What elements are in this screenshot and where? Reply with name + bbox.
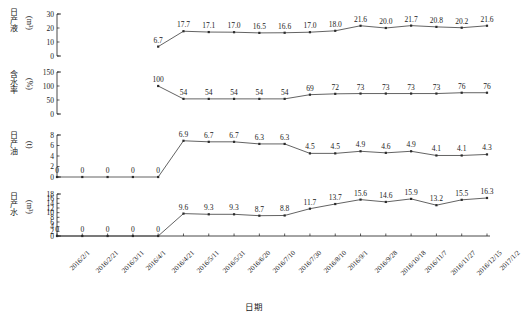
x-tick-label: 2016/9/1 (347, 249, 370, 272)
panel-1-data-label: 73 (407, 83, 415, 92)
panel-2-y-tick: 0 (50, 173, 54, 182)
x-tick-label: 2016/11/7 (423, 249, 449, 275)
panel-0-data-label: 16.6 (278, 22, 291, 31)
x-tick-label: 2016/7/30 (297, 249, 323, 275)
panel-3-data-label: 9.3 (204, 203, 214, 212)
panel-3-data-point (56, 235, 58, 237)
panel-3-data-label: 0 (156, 225, 160, 234)
panel-0-data-label: 6.7 (153, 36, 163, 45)
panel-2-data-point (284, 143, 286, 145)
panel-2-data-label: 4.1 (457, 144, 467, 153)
panel-3-data-label: 15.9 (405, 188, 418, 197)
panel-2-data-label: 4.9 (406, 140, 416, 149)
panel-0-data-point (309, 31, 311, 33)
panel-2-y-tick: 6 (50, 141, 54, 150)
x-tick-label: 2016/10/18 (399, 249, 427, 277)
x-tick-label: 2016/11/27 (450, 249, 478, 277)
panel-3-data-point (106, 235, 108, 237)
x-axis-area: 2016/2/12016/2/212016/3/112016/4/12016/4… (0, 246, 507, 317)
panel-0-data-point (157, 46, 159, 48)
panel-2-data-point (106, 176, 108, 178)
panel-2-data-point (334, 152, 336, 154)
panel-0-data-point (359, 25, 361, 27)
panel-2-data-label: 4.1 (432, 144, 442, 153)
panel-1-data-point (486, 92, 488, 94)
panel-1-data-point (385, 92, 387, 94)
panel-2-data-label: 6.7 (204, 131, 214, 140)
panel-2-data-label: 0 (131, 166, 135, 175)
panel-3-data-point (284, 214, 286, 216)
panel-2-data-label: 4.9 (356, 140, 366, 149)
panel-0-data-label: 21.7 (405, 15, 418, 24)
panel-3-data-point (435, 204, 437, 206)
panel-1-data-point (461, 92, 463, 94)
panel-2-data-point (435, 154, 437, 156)
panel-3-data-label: 9.3 (229, 203, 239, 212)
x-tick-label: 2016/4/21 (170, 249, 196, 275)
panel-1-data-point (435, 92, 437, 94)
panel-1-data-label: 54 (205, 88, 213, 97)
panel-3-data-label: 14.6 (379, 191, 392, 200)
panel-0-y-tick: 20 (47, 24, 55, 33)
panel-0-data-point (334, 30, 336, 32)
panel-1-data-point (359, 92, 361, 94)
panel-3-data-point (81, 235, 83, 237)
panel-0-data-label: 17.0 (303, 21, 316, 30)
panel-3-data-label: 8.8 (280, 204, 290, 213)
panel-1-data-label: 69 (306, 84, 314, 93)
x-tick-label: 2016/2/1 (68, 249, 91, 272)
panel-2-data-point (461, 154, 463, 156)
panel-3-data-label: 0 (55, 225, 59, 234)
panel-1-data-label: 54 (180, 88, 188, 97)
panel-0-data-point (435, 26, 437, 28)
panel-3-series-line (57, 198, 487, 236)
panel-2-data-point (208, 141, 210, 143)
panel-0-data-label: 17.0 (227, 21, 240, 30)
panel-0-data-point (208, 31, 210, 33)
panel-2-data-label: 4.6 (381, 142, 391, 151)
panel-2-data-point (258, 143, 260, 145)
panel-2-data-point (157, 176, 159, 178)
x-tick-label: 2016/9/28 (373, 249, 399, 275)
panel-3-data-label: 16.3 (480, 187, 493, 196)
panel-2-data-label: 4.3 (482, 143, 492, 152)
panel-1-data-point (334, 93, 336, 95)
panel-2-data-point (132, 176, 134, 178)
panel-3-data-point (461, 199, 463, 201)
panel-0-y-tick: 0 (50, 52, 54, 61)
panel-0-data-label: 17.1 (202, 21, 215, 30)
panel-3-data-point (359, 199, 361, 201)
panel-2-data-point (359, 150, 361, 152)
panel-1-data-point (233, 98, 235, 100)
panel-2-plot: 02468000006.96.76.76.36.34.54.54.94.64.9… (0, 123, 507, 184)
panel-daily-oil-production: 日产油 (t) 02468000006.96.76.76.36.34.54.54… (0, 123, 507, 184)
panel-3-data-point (486, 197, 488, 199)
panel-1-data-point (284, 98, 286, 100)
x-tick-label: 2016/2/21 (95, 249, 121, 275)
panel-0-y-tick: 10 (47, 38, 55, 47)
panel-3-data-label: 9.6 (179, 203, 189, 212)
panel-3-data-label: 0 (131, 225, 135, 234)
panel-3-data-point (182, 213, 184, 215)
x-tick-label: 2016/5/31 (221, 249, 247, 275)
panel-2-data-point (182, 140, 184, 142)
panel-2-data-label: 0 (106, 166, 110, 175)
panel-water-cut: 含水率 (%) 05010015010054545454546972737373… (0, 62, 507, 123)
panel-0-data-label: 16.5 (253, 22, 266, 31)
panel-3-data-label: 15.6 (354, 189, 367, 198)
panel-0-data-point (284, 32, 286, 34)
panel-1-y-tick: 150 (43, 68, 55, 77)
panel-1-data-label: 76 (458, 82, 466, 91)
x-tick-label: 2016/5/11 (196, 249, 222, 275)
panel-1-data-label: 73 (433, 83, 441, 92)
panel-3-data-point (334, 203, 336, 205)
panel-2-data-point (410, 150, 412, 152)
x-tick-label: 2016/8/10 (322, 249, 348, 275)
panel-1-data-point (157, 85, 159, 87)
panel-daily-liquid-production: 日产液 (m³) 01020306.717.717.117.016.516.61… (0, 0, 507, 62)
panel-1-data-point (410, 92, 412, 94)
panel-0-data-label: 20.0 (379, 17, 392, 26)
panel-0-data-label: 21.6 (354, 15, 367, 24)
panel-1-data-label: 73 (357, 83, 365, 92)
